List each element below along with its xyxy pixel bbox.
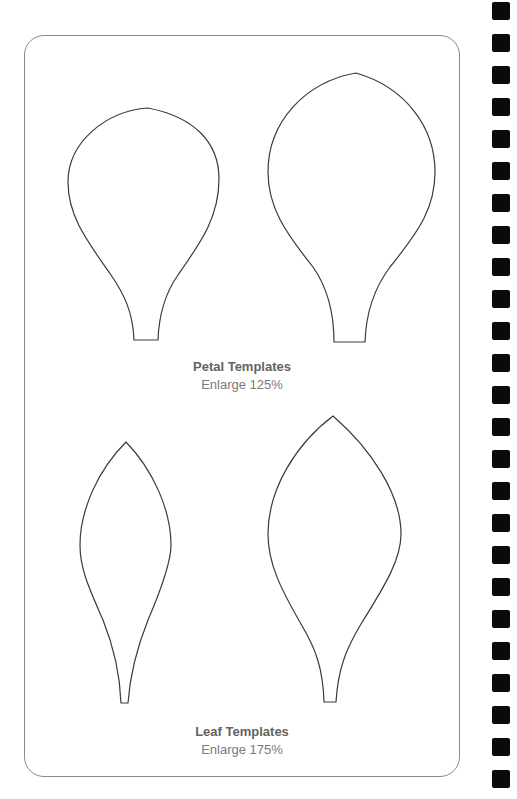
petal-title: Petal Templates: [24, 358, 460, 376]
binding-hole: [492, 130, 510, 148]
binding-hole: [492, 34, 510, 52]
petal-template-large: [265, 72, 441, 344]
binding-hole: [492, 386, 510, 404]
spiral-binding-holes: [492, 0, 512, 799]
binding-hole: [492, 770, 510, 788]
binding-hole: [492, 450, 510, 468]
binding-hole: [492, 482, 510, 500]
leaf-caption: Leaf Templates Enlarge 175%: [24, 723, 460, 759]
binding-hole: [492, 546, 510, 564]
binding-hole: [492, 162, 510, 180]
binding-hole: [492, 514, 510, 532]
binding-hole: [492, 66, 510, 84]
binding-hole: [492, 642, 510, 660]
leaf-template-small: [78, 440, 174, 705]
leaf-template-large: [266, 414, 406, 704]
petal-caption: Petal Templates Enlarge 125%: [24, 358, 460, 394]
binding-hole: [492, 194, 510, 212]
binding-hole: [492, 674, 510, 692]
binding-hole: [492, 290, 510, 308]
binding-hole: [492, 226, 510, 244]
binding-hole: [492, 706, 510, 724]
binding-hole: [492, 354, 510, 372]
leaf-enlarge-note: Enlarge 175%: [24, 741, 460, 759]
binding-hole: [492, 738, 510, 756]
binding-hole: [492, 418, 510, 436]
petal-template-small: [66, 107, 226, 342]
binding-hole: [492, 610, 510, 628]
binding-hole: [492, 98, 510, 116]
binding-hole: [492, 2, 510, 20]
binding-hole: [492, 578, 510, 596]
binding-hole: [492, 258, 510, 276]
petal-enlarge-note: Enlarge 125%: [24, 376, 460, 394]
binding-hole: [492, 322, 510, 340]
leaf-title: Leaf Templates: [24, 723, 460, 741]
